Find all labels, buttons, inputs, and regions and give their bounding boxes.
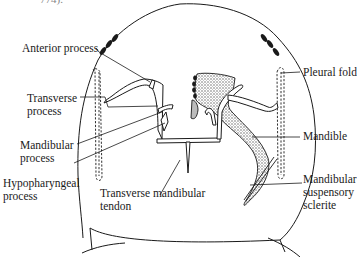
caption-fragment: 774). xyxy=(40,0,63,5)
label-anterior-process: Anterior process xyxy=(22,42,98,55)
label-mandible: Mandible xyxy=(303,130,347,143)
label-mandibular-process: Mandibular process xyxy=(20,139,74,165)
anterior-ridge-left xyxy=(99,33,120,56)
label-mandibular-suspensory-sclerite: Mandibular suspensory sclerite xyxy=(303,173,357,212)
pleural-fold-right xyxy=(277,68,284,179)
label-transverse-mandibular-tendon: Transverse mandibular tendon xyxy=(100,187,205,213)
head-capsule-diagram: 774). Anterior process Transverse proces… xyxy=(0,0,357,257)
pleural-fold-left xyxy=(93,69,102,181)
label-transverse-process: Transverse process xyxy=(27,92,77,118)
transverse-mandibular-tendon xyxy=(157,138,220,173)
label-hypopharyngeal-process: Hypopharyngeal process xyxy=(3,177,80,203)
label-pleural-fold: Pleural fold xyxy=(303,66,357,79)
diagram-drawing xyxy=(0,0,357,257)
